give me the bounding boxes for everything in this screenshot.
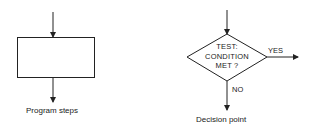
program-steps-symbol (18, 12, 95, 102)
program-steps-rectangle (18, 38, 95, 78)
decision-yes-label: YES (268, 46, 283, 55)
decision-point-caption: Decision point (196, 115, 246, 124)
decision-text-line-2: CONDITION (197, 52, 257, 62)
decision-text-line-1: TEST: (197, 42, 257, 52)
decision-no-label: NO (232, 85, 243, 94)
program-steps-caption: Program steps (26, 106, 78, 115)
decision-diamond-text: TEST: CONDITION MET ? (197, 42, 257, 71)
decision-text-line-3: MET ? (197, 61, 257, 71)
